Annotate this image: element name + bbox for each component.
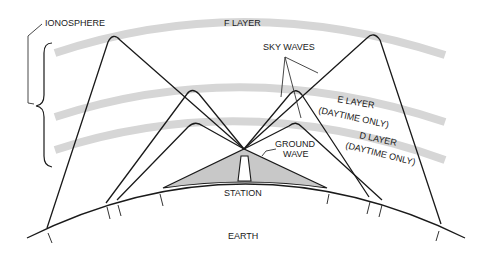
ground-wave-label-line2: WAVE	[283, 149, 309, 159]
earth-label: EARTH	[228, 231, 258, 241]
ionosphere-label: IONOSPHERE	[45, 18, 105, 28]
ground-wave-label-line1: GROUND	[275, 139, 315, 149]
ionosphere-propagation-diagram: IONOSPHERE F LAYER SKY WAVES E LAYER (DA…	[0, 0, 489, 258]
sky-waves-label: SKY WAVES	[263, 42, 315, 52]
ionosphere-leader	[28, 24, 42, 104]
ionosphere-brace	[36, 43, 52, 167]
e-layer-label: E LAYER	[337, 94, 376, 110]
e-layer-band	[55, 87, 445, 122]
station-label: STATION	[224, 188, 262, 198]
ground-wave-leader	[262, 149, 276, 156]
f-layer-label: F LAYER	[224, 18, 261, 28]
